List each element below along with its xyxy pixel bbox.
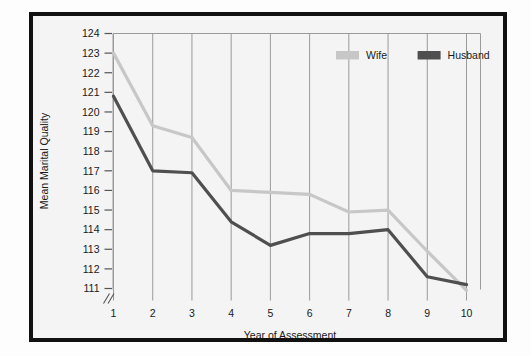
legend-label-husband: Husband	[448, 49, 490, 61]
x-tick-label: 10	[461, 307, 473, 319]
y-tick-label: 118	[83, 145, 100, 157]
line-chart: 1234567891011111211311411511611711811912…	[0, 0, 531, 356]
y-tick-label: 114	[83, 223, 100, 235]
x-tick-label: 6	[307, 307, 313, 319]
legend-swatch-wife	[336, 51, 359, 60]
plot-background	[113, 34, 467, 289]
x-tick-label: 2	[150, 307, 156, 319]
y-axis-title: Mean Marital Quality	[38, 112, 50, 209]
y-tick-label: 111	[84, 282, 100, 294]
y-tick-label: 124	[82, 27, 100, 39]
x-tick-label: 7	[346, 307, 352, 319]
legend-swatch-husband	[418, 51, 441, 60]
y-tick-label: 119	[83, 125, 100, 137]
y-tick-label: 123	[82, 47, 100, 59]
y-tick-label: 122	[82, 67, 100, 79]
legend-label-wife: Wife	[366, 49, 387, 61]
y-tick-label: 112	[83, 263, 100, 275]
y-tick-label: 120	[82, 106, 100, 118]
y-tick-label: 113	[83, 243, 100, 255]
x-tick-label: 8	[385, 307, 391, 319]
x-axis-title: Year of Assessment	[244, 329, 336, 341]
y-tick-label: 117	[83, 165, 100, 177]
y-tick-label: 115	[83, 204, 100, 216]
x-tick-label: 1	[111, 307, 117, 319]
x-tick-label: 9	[424, 307, 430, 319]
y-tick-label: 121	[82, 86, 100, 98]
y-axis-break-icon	[104, 294, 115, 304]
figure-canvas: 1234567891011111211311411511611711811912…	[0, 0, 531, 356]
x-tick-label: 5	[267, 307, 273, 319]
x-tick-label: 3	[189, 307, 195, 319]
x-tick-label: 4	[228, 307, 234, 319]
y-tick-label: 116	[83, 184, 100, 196]
